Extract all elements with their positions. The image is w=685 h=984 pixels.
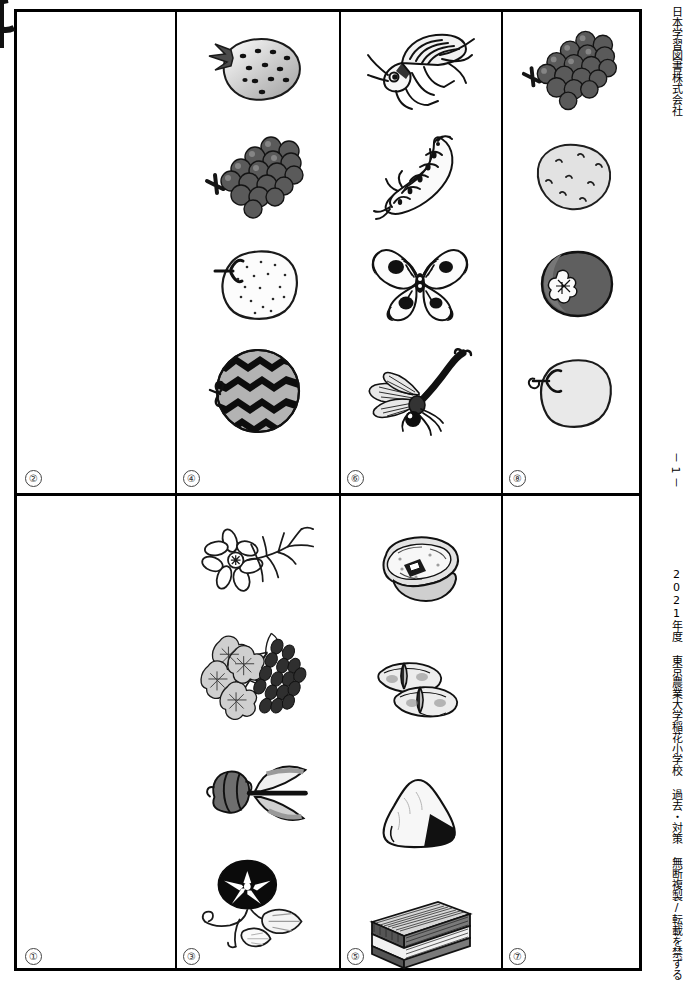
onigiri-icon — [360, 762, 480, 865]
picture-cell-5: ⑤ — [339, 496, 501, 971]
answer-cell-2[interactable]: ② — [17, 12, 175, 493]
picture-cell-8: ⑧ — [501, 12, 642, 493]
publisher-logo-icon — [0, 0, 26, 52]
sushi-roll-icon — [360, 520, 480, 623]
grapes-icon — [197, 125, 317, 228]
morning-glory-icon — [197, 856, 317, 952]
answer-cell-7[interactable]: ⑦ — [501, 496, 642, 971]
cell-number-8: ⑧ — [509, 470, 526, 487]
cell-number-1: ① — [25, 948, 42, 965]
page-number: － 1 － — [667, 452, 683, 488]
cosmos-icon — [197, 510, 317, 613]
picture-cell-4: ④ — [175, 12, 339, 493]
worksheet-page: ② — [0, 0, 685, 984]
copyright-footer: 2021年度 東京農業大学稲花小学校 過去・対策 無断複製/転載を禁ずる — [668, 568, 684, 980]
watermelon-icon — [197, 339, 317, 442]
cake-icon — [360, 883, 480, 971]
grapes-icon — [512, 18, 632, 121]
strawberry-icon — [197, 18, 317, 121]
cell-number-4: ④ — [183, 470, 200, 487]
butterfly-icon — [360, 232, 480, 335]
potato-icon — [512, 125, 632, 228]
grasshopper-icon — [360, 18, 480, 121]
tulip-icon — [197, 745, 317, 848]
picture-cell-6: ⑥ — [339, 12, 501, 493]
cell-number-5: ⑤ — [347, 948, 364, 965]
cell-number-3: ③ — [183, 948, 200, 965]
worksheet-frame: ② — [14, 9, 642, 971]
cell-number-2: ② — [25, 470, 42, 487]
cell-number-7: ⑦ — [509, 948, 526, 965]
lizard-icon — [360, 125, 480, 228]
publisher-name: 日本学習図書株式会社 — [668, 6, 684, 116]
pear-icon — [197, 232, 317, 335]
apple-icon — [512, 339, 632, 442]
picture-cell-3: ③ — [175, 496, 339, 971]
eggplant-icon — [512, 232, 632, 335]
dragonfly-icon — [360, 339, 480, 442]
cell-number-6: ⑥ — [347, 470, 364, 487]
answer-cell-1[interactable]: ① — [17, 496, 175, 971]
gyoza-icon — [360, 641, 480, 744]
hydrangea-icon — [197, 621, 317, 737]
